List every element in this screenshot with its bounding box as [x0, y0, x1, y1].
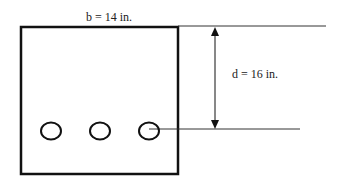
arrow-up-icon: [211, 27, 219, 36]
depth-label: d = 16 in.: [232, 67, 278, 81]
beam-cross-section: [21, 27, 178, 174]
beam-section-diagram: b = 14 in. d = 16 in.: [0, 0, 339, 188]
rebar-3: [139, 123, 159, 140]
arrow-down-icon: [211, 120, 219, 129]
width-label: b = 14 in.: [86, 10, 132, 24]
rebar-1: [41, 123, 61, 140]
rebar-2: [90, 123, 110, 140]
